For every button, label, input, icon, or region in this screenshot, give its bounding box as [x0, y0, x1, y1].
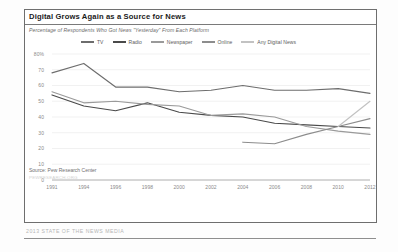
- series-line-online: [243, 119, 370, 144]
- x-axis-tick-label: 2010: [326, 184, 350, 190]
- y-axis-tick-label: 60: [28, 82, 44, 88]
- y-axis-tick-label: 80%: [28, 51, 44, 57]
- chart-card: Digital Grows Again as a Source for News…: [24, 9, 377, 223]
- legend-swatch-icon: [113, 41, 126, 42]
- x-axis-tick-label: 2008: [294, 184, 318, 190]
- footer-divider: [24, 238, 376, 239]
- chart-footer-caption: 2013 STATE OF THE NEWS MEDIA: [26, 228, 124, 234]
- legend-swatch-icon: [81, 41, 94, 42]
- series-line-radio: [52, 95, 370, 128]
- chart-plot-area: 01020304050607080%1991199419961998200020…: [25, 48, 378, 208]
- legend-swatch-icon: [151, 41, 164, 42]
- y-axis-tick-label: 20: [28, 145, 44, 151]
- legend-label: Online: [218, 39, 233, 45]
- x-axis-tick-label: 2006: [263, 184, 287, 190]
- legend-item-radio: Radio: [113, 39, 142, 45]
- chart-title: Digital Grows Again as a Source for News: [29, 12, 186, 21]
- legend-label: Newspaper: [167, 39, 193, 45]
- x-axis-tick-label: 1991: [40, 184, 64, 190]
- legend-item-online: Online: [202, 39, 233, 45]
- x-axis-tick-label: 1996: [104, 184, 128, 190]
- chart-subtitle: Percentage of Respondents Who Got News "…: [29, 27, 209, 33]
- y-axis-tick-label: 40: [28, 114, 44, 120]
- x-axis-tick-label: 2000: [167, 184, 191, 190]
- x-axis-tick-label: 2004: [231, 184, 255, 190]
- legend-label: Radio: [129, 39, 142, 45]
- series-line-newspaper: [52, 92, 370, 135]
- chart-source: Source: Pew Research Center: [29, 167, 97, 173]
- y-axis-tick-label: 70: [28, 67, 44, 73]
- legend-swatch-icon: [241, 41, 254, 42]
- legend-item-tv: TV: [81, 39, 104, 45]
- legend-label: Any Digital News: [257, 39, 296, 45]
- screenshot-page: Digital Grows Again as a Source for News…: [0, 0, 398, 252]
- x-axis-tick-label: 1994: [72, 184, 96, 190]
- legend-item-any-digital-news: Any Digital News: [241, 39, 296, 45]
- legend-label: TV: [97, 39, 104, 45]
- y-axis-tick-label: 50: [28, 98, 44, 104]
- x-axis-tick-label: 2002: [199, 184, 223, 190]
- legend-swatch-icon: [202, 41, 215, 42]
- x-axis-tick-label: 2012: [358, 184, 382, 190]
- x-axis-tick-label: 1998: [135, 184, 159, 190]
- legend-item-newspaper: Newspaper: [151, 39, 193, 45]
- series-line-tv: [52, 63, 370, 93]
- chart-source-note: PEWRESEARCH.ORG: [29, 175, 78, 180]
- y-axis-tick-label: 30: [28, 130, 44, 136]
- chart-legend: TVRadioNewspaperOnlineAny Digital News: [81, 37, 376, 47]
